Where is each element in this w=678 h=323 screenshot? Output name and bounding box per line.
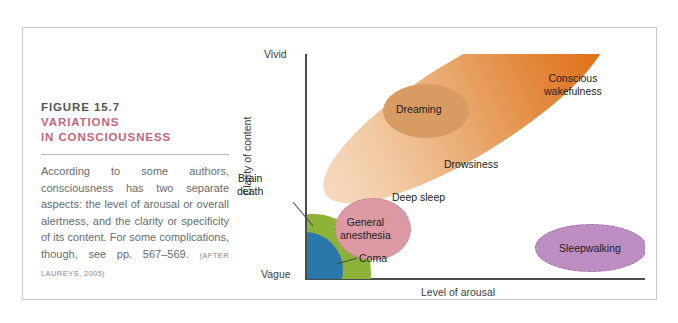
figure-panel: FIGURE 15.7 VARIATIONS IN CONSCIOUSNESS …: [22, 27, 657, 300]
region-label-general-anesthesia-line-1: General: [340, 216, 391, 229]
x-axis-title: Level of arousal: [421, 286, 495, 298]
caption-divider: [41, 154, 229, 155]
chart-shapes-layer: Dreaming Drowsiness Conscious wakefulnes…: [307, 54, 645, 279]
caption-text: According to some authors, consciousness…: [41, 163, 229, 283]
y-axis-tick-vivid: Vivid: [264, 48, 287, 60]
region-label-sleepwalking: Sleepwalking: [559, 242, 621, 255]
y-axis-tick-vague: Vague: [261, 268, 291, 280]
caption-body-text: According to some authors, consciousness…: [41, 165, 229, 260]
figure-caption-block: FIGURE 15.7 VARIATIONS IN CONSCIOUSNESS …: [41, 100, 229, 283]
region-label-conscious-wakefulness-line-2: wakefulness: [544, 85, 602, 98]
region-label-general-anesthesia: General anesthesia: [340, 216, 391, 241]
region-label-conscious-wakefulness: Conscious wakefulness: [544, 72, 602, 97]
region-label-conscious-wakefulness-line-1: Conscious: [544, 72, 602, 85]
figure-number: FIGURE 15.7: [41, 100, 229, 115]
y-axis-title: Clarity of content: [241, 91, 253, 221]
region-label-deep-sleep: Deep sleep: [392, 191, 445, 204]
region-label-brain-death: Brain death: [237, 172, 263, 197]
region-label-drowsiness: Drowsiness: [444, 158, 498, 171]
chart-plot-area: Vivid Vague Level of arousal Clarity of …: [231, 30, 656, 300]
region-label-brain-death-line-1: Brain: [237, 172, 263, 185]
figure-title-line-1: VARIATIONS: [41, 115, 229, 130]
region-label-dreaming: Dreaming: [396, 103, 442, 116]
region-label-brain-death-line-2: death: [237, 185, 263, 198]
figure-title-line-2: IN CONSCIOUSNESS: [41, 130, 229, 145]
region-label-general-anesthesia-line-2: anesthesia: [340, 229, 391, 242]
region-label-coma: Coma: [359, 252, 387, 264]
